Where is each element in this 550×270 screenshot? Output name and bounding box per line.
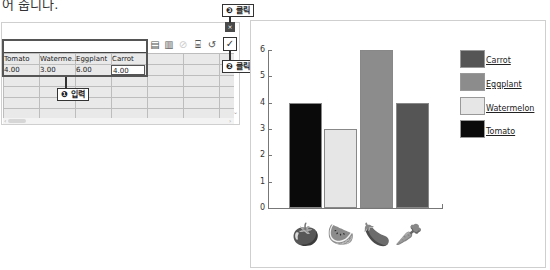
- bar-watermelon[interactable]: [324, 129, 357, 208]
- insert-column-icon[interactable]: ▥: [163, 39, 175, 51]
- carrot-icon: 🥕: [392, 222, 424, 248]
- legend-label-tomato: Tomato: [486, 127, 515, 136]
- legend-label-eggplant: Eggplant: [486, 80, 522, 89]
- x-axis: [268, 208, 443, 209]
- y-tick-label-4: 4: [255, 98, 265, 107]
- legend-swatch-tomato: [460, 120, 485, 138]
- undo-icon[interactable]: ↺: [206, 39, 218, 51]
- bar-tomato[interactable]: [289, 103, 322, 208]
- scroll-left-icon[interactable]: ‹: [4, 117, 6, 124]
- cancel-button[interactable]: ×: [225, 22, 235, 32]
- y-tick-label-1: 1: [255, 177, 265, 186]
- confirm-button[interactable]: ✓: [223, 37, 237, 51]
- bar-eggplant[interactable]: [360, 50, 393, 208]
- table-icon[interactable]: ⌸: [192, 39, 204, 51]
- input-highlight-box: [2, 39, 148, 77]
- horizontal-scrollbar[interactable]: [3, 118, 234, 124]
- y-tick-label-0: 0: [255, 203, 265, 212]
- x-axis-end-tick: [442, 204, 443, 209]
- legend-swatch-watermelon: [460, 97, 485, 115]
- legend-label-watermelon: Watermelon: [486, 104, 534, 113]
- legend-swatch-eggplant: [460, 73, 485, 91]
- scrollbar-thumb[interactable]: [8, 119, 26, 123]
- y-tick-label-5: 5: [255, 71, 265, 80]
- scroll-right-icon[interactable]: ›: [229, 117, 231, 124]
- delete-icon[interactable]: ⊘: [177, 39, 189, 51]
- callout-step2: ❷ 클릭: [222, 60, 254, 73]
- instruction-text-fragment: 어 줍니다.: [2, 0, 58, 13]
- watermelon-icon: 🍉: [324, 222, 356, 248]
- tomato-icon: 🍅: [289, 222, 321, 248]
- callout-step1: ❶ 입력: [57, 88, 89, 101]
- insert-row-icon[interactable]: ▤: [149, 39, 161, 51]
- callout-step3: ❸ 클릭: [222, 4, 254, 17]
- y-axis: [268, 50, 269, 208]
- scroll-down-icon[interactable]: ⌄: [233, 108, 238, 115]
- y-tick-label-3: 3: [255, 124, 265, 133]
- eggplant-icon: 🍆: [360, 222, 392, 248]
- y-tick-label-6: 6: [255, 45, 265, 54]
- legend-label-carrot: Carrot: [486, 56, 511, 65]
- y-tick-label-2: 2: [255, 150, 265, 159]
- bar-carrot[interactable]: [396, 103, 429, 208]
- legend-swatch-carrot: [460, 50, 485, 68]
- callout-leader-1: [65, 77, 67, 88]
